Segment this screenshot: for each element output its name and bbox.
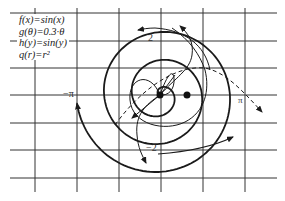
label-neg-pi: −π — [63, 88, 74, 99]
diagram-figure: f(x)=sin(x) g(θ)=0.3·θ h(y)=sin(y) q(r)=… — [0, 0, 285, 201]
legend: f(x)=sin(x) g(θ)=0.3·θ h(y)=sin(y) q(r)=… — [17, 14, 69, 60]
label-pi: π — [238, 95, 243, 105]
legend-item-h: h(y)=sin(y) — [19, 37, 67, 49]
point-point-b — [184, 92, 191, 99]
legend-item-q: q(r)=r² — [19, 49, 67, 61]
label-neg-two: −2 — [146, 142, 157, 153]
lower-arc-arrow — [158, 137, 233, 154]
legend-item-g: g(θ)=0.3·θ — [19, 26, 67, 38]
point-origin — [157, 92, 164, 99]
label-two: 2 — [148, 32, 153, 43]
legend-item-f: f(x)=sin(x) — [19, 14, 67, 26]
